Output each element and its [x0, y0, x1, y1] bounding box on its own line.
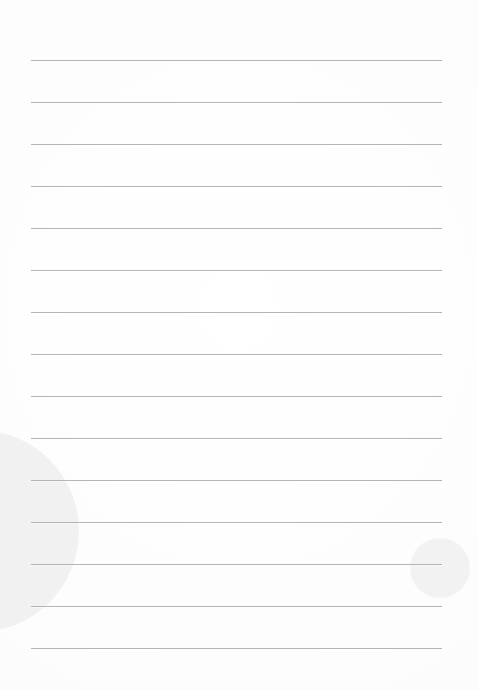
note-page: [0, 0, 478, 690]
writing-area[interactable]: [31, 20, 442, 660]
